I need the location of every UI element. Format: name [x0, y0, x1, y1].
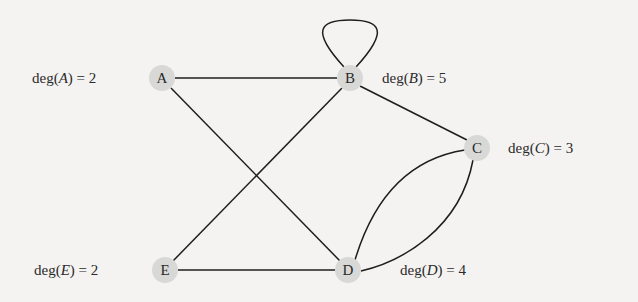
node-a: A: [149, 65, 175, 91]
degree-label-b: deg(B) = 5: [382, 70, 446, 87]
edge-b-c: [360, 86, 467, 140]
edge-b-loop: [323, 20, 378, 67]
degree-label-a: deg(A) = 2: [32, 70, 96, 87]
node-e: E: [152, 257, 178, 283]
edge-a-d: [171, 88, 340, 261]
edge-c-d-upper: [355, 150, 465, 260]
node-d: D: [335, 257, 361, 283]
degree-label-e: deg(E) = 2: [34, 262, 98, 279]
edge-b-e: [173, 88, 342, 261]
degree-label-d: deg(D) = 4: [400, 262, 466, 279]
edge-c-d-lower: [361, 160, 473, 271]
node-b: B: [337, 65, 363, 91]
node-c: C: [464, 135, 490, 161]
degree-label-c: deg(C) = 3: [508, 140, 573, 157]
